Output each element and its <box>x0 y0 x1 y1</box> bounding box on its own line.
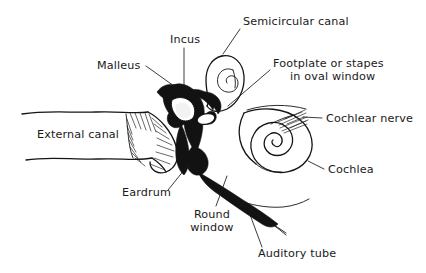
label-auditory-tube: Auditory tube <box>258 247 336 260</box>
label-semicircular-canal: Semicircular canal <box>243 15 349 28</box>
label-malleus: Malleus <box>97 59 141 72</box>
diagram-canvas: Semicircular canal Incus Malleus Footpla… <box>0 0 426 273</box>
label-incus: Incus <box>170 33 200 46</box>
label-round-window-line2: window <box>190 221 233 234</box>
label-footplate-stapes: Footplate or stapes in oval window <box>273 57 384 83</box>
label-eardrum: Eardrum <box>122 186 171 199</box>
ear-anatomy-diagram: Semicircular canal Incus Malleus Footpla… <box>0 0 426 273</box>
label-cochlea: Cochlea <box>328 163 374 176</box>
label-cochlear-nerve: Cochlear nerve <box>326 112 413 125</box>
label-round-window-line1: Round <box>194 208 230 221</box>
label-footplate-stapes-line1: Footplate or stapes <box>273 57 384 70</box>
label-external-canal: External canal <box>37 128 119 141</box>
label-footplate-stapes-line2: in oval window <box>290 70 375 83</box>
label-round-window: Round window <box>190 208 233 234</box>
